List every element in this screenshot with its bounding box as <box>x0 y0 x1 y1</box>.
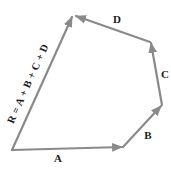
vector-c-label: C <box>161 68 169 80</box>
vector-a-label: A <box>54 152 62 164</box>
vector-d-label: D <box>113 13 121 25</box>
vector-a-arrow <box>12 147 122 150</box>
vector-diagram: A B C D R = A + B + C + D <box>0 0 171 172</box>
vector-b-label: B <box>144 129 152 141</box>
vector-b-arrow <box>123 106 161 147</box>
